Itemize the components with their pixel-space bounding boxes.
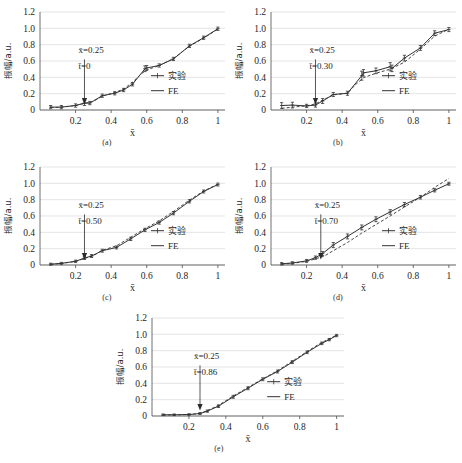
svg-text:0.2: 0.2 <box>254 89 266 99</box>
svg-text:实验: 实验 <box>284 376 302 387</box>
svg-text:0.4: 0.4 <box>105 271 117 281</box>
svg-text:1.0: 1.0 <box>23 24 35 34</box>
svg-text:0: 0 <box>30 105 35 115</box>
svg-text:x̄: x̄ <box>361 282 366 293</box>
svg-text:t̄=0.70: t̄=0.70 <box>314 216 339 226</box>
svg-text:1.2: 1.2 <box>23 162 35 172</box>
svg-text:振幅/a.u.: 振幅/a.u. <box>3 43 13 80</box>
svg-text:1.2: 1.2 <box>135 313 147 323</box>
svg-text:1: 1 <box>447 116 452 126</box>
svg-text:x̄=0.25: x̄=0.25 <box>315 200 341 210</box>
svg-text:0.8: 0.8 <box>407 116 419 126</box>
chart-panel-a: 00.20.40.60.81.01.20.20.40.60.81x̄=0.25t… <box>0 2 231 140</box>
svg-text:1.0: 1.0 <box>254 24 266 34</box>
svg-text:振幅/a.u.: 振幅/a.u. <box>234 43 244 80</box>
svg-text:t̄=0.86: t̄=0.86 <box>193 367 218 377</box>
svg-text:0.6: 0.6 <box>257 422 269 432</box>
svg-text:0.8: 0.8 <box>294 422 306 432</box>
svg-text:0.2: 0.2 <box>183 422 195 432</box>
svg-text:x̄: x̄ <box>246 433 251 444</box>
svg-text:实验: 实验 <box>399 70 417 81</box>
panel-caption-d: (d) <box>327 293 349 302</box>
svg-text:FE: FE <box>399 86 410 96</box>
svg-text:x̄=0.25: x̄=0.25 <box>78 200 104 210</box>
svg-text:0.6: 0.6 <box>23 211 35 221</box>
svg-text:1.0: 1.0 <box>23 179 35 189</box>
svg-text:x̄: x̄ <box>130 282 135 293</box>
svg-text:t̄=0.30: t̄=0.30 <box>309 61 334 71</box>
chart-panel-b: 00.20.40.60.81.01.20.20.40.60.81x̄=0.25t… <box>231 2 462 140</box>
svg-text:1.0: 1.0 <box>135 330 147 340</box>
svg-text:FE: FE <box>399 241 410 251</box>
svg-text:x̄=0.25: x̄=0.25 <box>309 45 335 55</box>
svg-text:0.4: 0.4 <box>336 116 348 126</box>
svg-text:振幅/a.u.: 振幅/a.u. <box>3 198 13 235</box>
svg-text:1: 1 <box>216 271 221 281</box>
svg-text:实验: 实验 <box>168 70 186 81</box>
svg-text:0.4: 0.4 <box>336 271 348 281</box>
svg-text:0.6: 0.6 <box>141 271 153 281</box>
svg-text:1: 1 <box>447 271 452 281</box>
svg-text:0.4: 0.4 <box>135 379 147 389</box>
svg-text:0.4: 0.4 <box>220 422 232 432</box>
svg-text:1: 1 <box>334 422 339 432</box>
svg-text:x̄: x̄ <box>361 127 366 138</box>
svg-text:t̄=0: t̄=0 <box>78 61 91 71</box>
svg-text:0.6: 0.6 <box>23 56 35 66</box>
svg-text:0.8: 0.8 <box>254 195 266 205</box>
svg-text:FE: FE <box>168 86 179 96</box>
svg-text:实验: 实验 <box>168 225 186 236</box>
svg-text:0.6: 0.6 <box>372 116 384 126</box>
svg-text:0: 0 <box>261 105 266 115</box>
svg-text:x̄=0.25: x̄=0.25 <box>194 351 220 361</box>
svg-text:0.8: 0.8 <box>23 195 35 205</box>
svg-text:0.4: 0.4 <box>23 73 35 83</box>
svg-text:t̄=0.50: t̄=0.50 <box>78 216 103 226</box>
svg-text:0.2: 0.2 <box>301 271 313 281</box>
svg-text:x̄=0.25: x̄=0.25 <box>78 45 104 55</box>
chart-panel-e: 00.20.40.60.81.01.20.20.40.60.81x̄=0.25t… <box>112 308 350 446</box>
svg-text:0.8: 0.8 <box>254 40 266 50</box>
svg-text:0.4: 0.4 <box>105 116 117 126</box>
svg-text:FE: FE <box>168 241 179 251</box>
panel-caption-c: (c) <box>96 293 118 302</box>
figure-multipanel-chart: 00.20.40.60.81.01.20.20.40.60.81x̄=0.25t… <box>0 0 462 463</box>
svg-text:0.2: 0.2 <box>301 116 313 126</box>
svg-text:0.8: 0.8 <box>176 271 188 281</box>
svg-text:振幅/a.u.: 振幅/a.u. <box>234 198 244 235</box>
svg-text:1.2: 1.2 <box>23 7 35 17</box>
svg-text:0.8: 0.8 <box>135 346 147 356</box>
svg-text:x̄: x̄ <box>130 127 135 138</box>
svg-text:FE: FE <box>284 392 295 402</box>
svg-text:0.8: 0.8 <box>176 116 188 126</box>
svg-text:实验: 实验 <box>399 225 417 236</box>
svg-text:0.2: 0.2 <box>70 271 82 281</box>
svg-text:0.6: 0.6 <box>254 211 266 221</box>
chart-panel-d: 00.20.40.60.81.01.20.20.40.60.81x̄=0.25t… <box>231 157 462 295</box>
svg-text:0.2: 0.2 <box>70 116 82 126</box>
svg-text:0.4: 0.4 <box>254 228 266 238</box>
panel-caption-e: (e) <box>208 444 230 453</box>
svg-text:1.2: 1.2 <box>254 7 266 17</box>
svg-text:0.8: 0.8 <box>407 271 419 281</box>
svg-text:0.6: 0.6 <box>254 56 266 66</box>
svg-text:1: 1 <box>216 116 221 126</box>
svg-text:振幅/a.u.: 振幅/a.u. <box>115 349 125 386</box>
chart-panel-c: 00.20.40.60.81.01.20.20.40.60.81x̄=0.25t… <box>0 157 231 295</box>
svg-text:0.2: 0.2 <box>254 244 266 254</box>
svg-text:0.2: 0.2 <box>23 89 35 99</box>
panel-caption-a: (a) <box>96 138 118 147</box>
svg-text:0.6: 0.6 <box>141 116 153 126</box>
svg-text:0.6: 0.6 <box>135 362 147 372</box>
svg-text:0: 0 <box>142 411 147 421</box>
svg-text:0.6: 0.6 <box>372 271 384 281</box>
svg-text:0.2: 0.2 <box>135 395 147 405</box>
svg-text:1.2: 1.2 <box>254 162 266 172</box>
svg-text:1.0: 1.0 <box>254 179 266 189</box>
svg-text:0.4: 0.4 <box>23 228 35 238</box>
svg-text:0.8: 0.8 <box>23 40 35 50</box>
svg-text:0.4: 0.4 <box>254 73 266 83</box>
panel-caption-b: (b) <box>327 138 349 147</box>
svg-text:0.2: 0.2 <box>23 244 35 254</box>
svg-text:0: 0 <box>261 260 266 270</box>
